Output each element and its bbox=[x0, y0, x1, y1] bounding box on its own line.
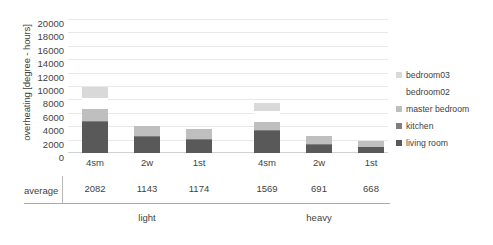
bar-light-1st bbox=[186, 129, 212, 153]
y-tick-label: 12000 bbox=[38, 73, 64, 83]
x-tick-label: 1st bbox=[345, 157, 397, 168]
legend-item-bedroom02[interactable]: bedroom02 bbox=[396, 83, 492, 100]
legend-label: bedroom02 bbox=[406, 87, 450, 97]
bar-segment-master-bedroom bbox=[254, 122, 280, 131]
y-tick-label: 0 bbox=[59, 153, 64, 163]
bar-segment-bedroom02 bbox=[254, 111, 280, 121]
bar-heavy-2w bbox=[306, 136, 332, 153]
y-tick-label: 10000 bbox=[38, 86, 64, 96]
bar-segment-living-room bbox=[82, 122, 108, 153]
bar-segment-living-room bbox=[254, 131, 280, 153]
bar-segment-living-room bbox=[358, 147, 384, 153]
y-tick-label: 4000 bbox=[43, 126, 64, 136]
gridline bbox=[68, 59, 388, 60]
bar-segment-master-bedroom bbox=[306, 136, 332, 144]
group-labels: lightheavy bbox=[68, 212, 388, 226]
y-tick-label: 16000 bbox=[38, 46, 64, 56]
average-value: 691 bbox=[293, 183, 345, 194]
y-tick-label: 2000 bbox=[43, 140, 64, 150]
legend-swatch-icon bbox=[396, 72, 402, 78]
y-tick-label: 6000 bbox=[43, 113, 64, 123]
x-axis-category-labels: 4sm2w1st4sm2w1st bbox=[68, 157, 388, 173]
gridline bbox=[68, 86, 388, 87]
bar-segment-living-room bbox=[186, 140, 212, 153]
y-tick-label: 14000 bbox=[38, 59, 64, 69]
average-value: 2082 bbox=[69, 183, 121, 194]
legend-swatch-icon bbox=[396, 106, 402, 112]
bar-segment-master-bedroom bbox=[82, 109, 108, 120]
gridline bbox=[68, 113, 388, 114]
gridline bbox=[68, 99, 388, 100]
y-axis-tick-labels: 2000018000160001400012000100008000600040… bbox=[22, 12, 64, 160]
gridline bbox=[68, 32, 388, 33]
x-tick-label: 1st bbox=[173, 157, 225, 168]
legend-swatch-icon bbox=[396, 123, 402, 129]
average-value: 1174 bbox=[173, 183, 225, 194]
overheating-stacked-bar-chart: overheating [degree - hours] 20000180001… bbox=[0, 0, 493, 245]
y-tick-label: 20000 bbox=[38, 19, 64, 29]
legend-swatch-icon bbox=[396, 140, 402, 146]
average-row-label: average bbox=[24, 185, 58, 196]
bar-segment-bedroom03 bbox=[82, 87, 108, 98]
gridline bbox=[68, 140, 388, 141]
axis-baseline bbox=[68, 152, 388, 153]
bar-heavy-4sm bbox=[254, 103, 280, 153]
chart-legend: bedroom03bedroom02master bedroomkitchenl… bbox=[396, 66, 492, 151]
legend-label: bedroom03 bbox=[406, 70, 450, 80]
group-label-heavy: heavy bbox=[264, 212, 374, 223]
legend-item-bedroom03[interactable]: bedroom03 bbox=[396, 66, 492, 83]
legend-item-master-bedroom[interactable]: master bedroom bbox=[396, 100, 492, 117]
gridline bbox=[68, 19, 388, 20]
x-tick-label: 4sm bbox=[241, 157, 293, 168]
bar-light-2w bbox=[134, 126, 160, 153]
average-row-values: 2082114311741569691668 bbox=[68, 183, 388, 197]
legend-item-living-room[interactable]: living room bbox=[396, 134, 492, 151]
average-value: 1569 bbox=[241, 183, 293, 194]
gridline bbox=[68, 46, 388, 47]
average-value: 668 bbox=[345, 183, 397, 194]
legend-swatch-icon bbox=[396, 89, 402, 95]
x-tick-label: 2w bbox=[293, 157, 345, 168]
gridline bbox=[68, 126, 388, 127]
average-row-rule bbox=[24, 203, 390, 204]
gridline bbox=[68, 73, 388, 74]
x-tick-label: 2w bbox=[121, 157, 173, 168]
bar-segment-living-room bbox=[306, 145, 332, 153]
bar-segment-living-room bbox=[134, 137, 160, 153]
y-tick-label: 18000 bbox=[38, 32, 64, 42]
legend-item-kitchen[interactable]: kitchen bbox=[396, 117, 492, 134]
plot-area bbox=[68, 19, 388, 153]
legend-label: master bedroom bbox=[406, 104, 469, 114]
legend-label: kitchen bbox=[406, 121, 434, 131]
group-label-light: light bbox=[92, 212, 202, 223]
bar-segment-master-bedroom bbox=[186, 129, 212, 138]
bar-light-4sm bbox=[82, 87, 108, 153]
average-row-divider bbox=[62, 176, 63, 204]
bar-segment-master-bedroom bbox=[134, 126, 160, 136]
x-tick-label: 4sm bbox=[69, 157, 121, 168]
bar-segment-bedroom02 bbox=[82, 98, 108, 109]
average-value: 1143 bbox=[121, 183, 173, 194]
bar-heavy-1st bbox=[358, 141, 384, 153]
bar-segment-bedroom03 bbox=[254, 103, 280, 111]
legend-label: living room bbox=[406, 138, 448, 148]
y-tick-label: 8000 bbox=[43, 99, 64, 109]
